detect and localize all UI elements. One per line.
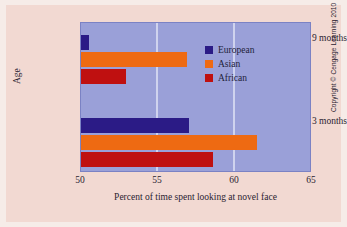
- legend-swatch-african-icon: [205, 74, 213, 82]
- y-axis-title: Age: [12, 68, 22, 84]
- legend-swatch-european-icon: [205, 46, 213, 54]
- bar-3-months-african: [81, 152, 213, 167]
- plot-area: [80, 22, 311, 172]
- x-tick-label-65: 65: [306, 175, 316, 185]
- legend-item-asian: Asian: [205, 58, 254, 70]
- copyright-credit: Copyright © Cengage Learning 2010: [330, 3, 337, 112]
- legend-item-african: African: [205, 72, 254, 84]
- legend: European Asian African: [205, 44, 254, 86]
- legend-label-african: African: [218, 73, 247, 83]
- bar-9-months-european: [81, 35, 89, 50]
- bar-9-months-asian: [81, 52, 187, 67]
- legend-swatch-asian-icon: [205, 60, 213, 68]
- legend-label-european: European: [218, 45, 254, 55]
- figure-container: Age 9 months 3 months European Asian Afr…: [0, 0, 347, 227]
- legend-item-european: European: [205, 44, 254, 56]
- bar-3-months-european: [81, 118, 189, 133]
- bar-3-months-asian: [81, 135, 257, 150]
- bar-9-months-african: [81, 69, 126, 84]
- x-tick-label-60: 60: [229, 175, 239, 185]
- x-tick-label-55: 55: [152, 175, 162, 185]
- x-axis-title: Percent of time spent looking at novel f…: [80, 192, 311, 202]
- x-tick-label-50: 50: [75, 175, 85, 185]
- legend-label-asian: Asian: [218, 59, 240, 69]
